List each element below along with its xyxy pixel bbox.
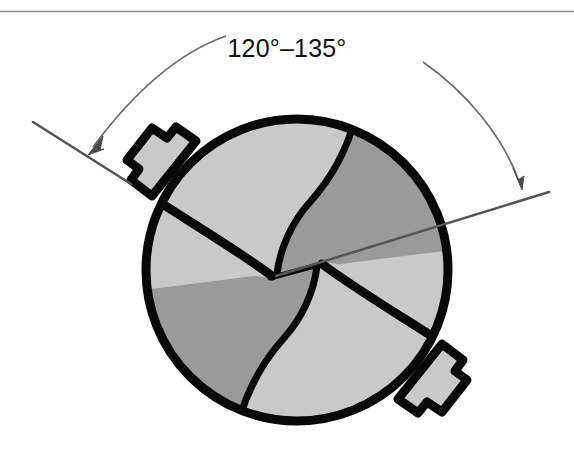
drill-point-angle-figure: 120°–135° xyxy=(0,0,574,454)
dimension-arrowhead-left xyxy=(88,136,104,155)
leader-line-left xyxy=(33,122,131,184)
angle-label: 120°–135° xyxy=(227,34,346,62)
dimension-arc-right-group xyxy=(423,62,524,190)
dimension-arc-right xyxy=(423,62,519,181)
diagram-canvas: 120°–135° xyxy=(0,0,574,454)
